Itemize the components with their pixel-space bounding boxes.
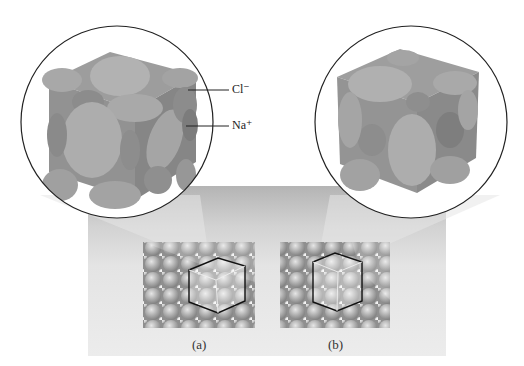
thumbnail-b bbox=[280, 242, 390, 328]
sodium-ion-label: Na⁺ bbox=[232, 119, 252, 131]
caption-a: (a) bbox=[192, 338, 206, 351]
left-magnified-unit-cell bbox=[21, 26, 229, 218]
thumbnail-a bbox=[143, 242, 255, 328]
chloride-ion-label: Cl⁻ bbox=[232, 83, 250, 95]
caption-b: (b) bbox=[328, 338, 343, 351]
right-magnified-unit-cell bbox=[315, 26, 507, 218]
figure: Cl⁻ Na⁺ (a) (b) bbox=[0, 0, 524, 366]
diagram-graphics bbox=[0, 0, 524, 366]
